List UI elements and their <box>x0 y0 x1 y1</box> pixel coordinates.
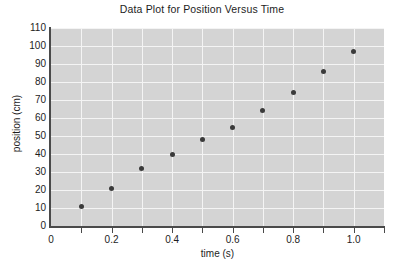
x-axis-title: time (s) <box>51 248 384 259</box>
y-axis-tick-labels: 0102030405060708090100110 <box>0 0 46 267</box>
gridline-horizontal <box>51 118 384 119</box>
gridline-horizontal <box>51 100 384 101</box>
gridline-horizontal <box>51 190 384 191</box>
y-axis-tick-label: 30 <box>2 167 46 177</box>
data-point <box>321 69 326 74</box>
gridline-horizontal <box>51 64 384 65</box>
gridline-vertical <box>112 28 113 226</box>
x-axis-tick <box>384 228 385 233</box>
x-axis-tick <box>172 228 173 233</box>
gridline-horizontal <box>51 82 384 83</box>
x-axis-tick-label: 1.0 <box>334 234 374 245</box>
y-axis-tick-label: 90 <box>2 59 46 69</box>
x-axis-tick-label: 0 <box>31 234 71 245</box>
y-axis-tick-label: 50 <box>2 131 46 141</box>
y-axis-tick-label: 110 <box>2 23 46 33</box>
x-axis-tick-label: 0.2 <box>92 234 132 245</box>
data-point <box>260 108 265 113</box>
y-axis-tick-label: 40 <box>2 149 46 159</box>
data-point <box>79 204 84 209</box>
x-axis-tick <box>233 228 234 233</box>
gridline-horizontal <box>51 28 384 29</box>
gridline-horizontal <box>51 154 384 155</box>
gridline-vertical <box>354 28 355 226</box>
y-axis-tick-label: 80 <box>2 77 46 87</box>
y-axis-tick-label: 60 <box>2 113 46 123</box>
data-point <box>200 137 205 142</box>
gridline-horizontal <box>51 136 384 137</box>
gridline-vertical <box>263 28 264 226</box>
gridline-vertical <box>293 28 294 226</box>
chart-title: Data Plot for Position Versus Time <box>0 3 404 15</box>
gridline-vertical <box>323 28 324 226</box>
data-point <box>230 125 235 130</box>
gridline-vertical <box>142 28 143 226</box>
x-axis-tick <box>323 228 324 233</box>
x-axis-tick-label: 0.4 <box>152 234 192 245</box>
x-axis-tick <box>354 228 355 233</box>
x-axis-tick-label: 0.6 <box>213 234 253 245</box>
gridline-horizontal <box>51 208 384 209</box>
gridline-horizontal <box>51 172 384 173</box>
data-point <box>139 166 144 171</box>
y-axis-title: position (cm) <box>11 74 22 174</box>
y-axis-tick-label: 0 <box>2 221 46 231</box>
data-point <box>291 90 296 95</box>
y-axis-tick-label: 20 <box>2 185 46 195</box>
gridline-vertical <box>81 28 82 226</box>
data-point <box>351 49 356 54</box>
gridline-vertical <box>172 28 173 226</box>
x-axis-line <box>49 226 385 228</box>
gridline-horizontal <box>51 46 384 47</box>
y-axis-tick-label: 100 <box>2 41 46 51</box>
plot-area <box>51 28 384 226</box>
chart-figure: Data Plot for Position Versus Time 01020… <box>0 0 404 267</box>
x-axis-tick <box>81 228 82 233</box>
y-axis-tick-label: 10 <box>2 203 46 213</box>
x-axis-tick <box>202 228 203 233</box>
x-axis-tick-label: 0.8 <box>273 234 313 245</box>
x-axis-tick <box>142 228 143 233</box>
x-axis-tick <box>112 228 113 233</box>
x-axis-tick <box>293 228 294 233</box>
y-axis-line <box>49 27 51 227</box>
data-point <box>170 152 175 157</box>
y-axis-tick-label: 70 <box>2 95 46 105</box>
x-axis-tick <box>263 228 264 233</box>
data-point <box>109 186 114 191</box>
gridline-vertical <box>202 28 203 226</box>
